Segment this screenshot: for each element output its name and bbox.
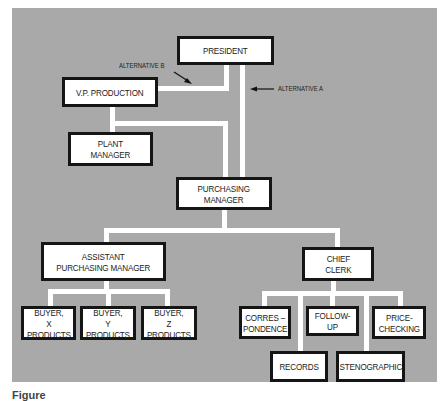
figure-caption: Figure <box>12 389 46 401</box>
arrow-alternative-b-icon <box>174 72 192 84</box>
label-alternative-b: ALTERNATIVE B <box>119 62 164 69</box>
arrow-alternative-a-icon <box>250 87 274 92</box>
label-alternative-a: ALTERNATIVE A <box>278 85 323 92</box>
